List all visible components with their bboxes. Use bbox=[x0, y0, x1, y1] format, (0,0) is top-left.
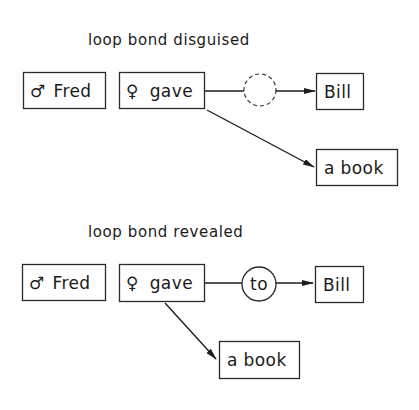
loop-bond-diagram: loop bond disguised ♂ Fred ♀ gave Bill bbox=[0, 0, 419, 410]
edge-gave-book bbox=[165, 303, 216, 359]
node-label: gave bbox=[150, 81, 193, 101]
node-label: Bill bbox=[323, 275, 350, 295]
node-book: a book bbox=[317, 150, 398, 186]
node-label: Fred bbox=[53, 81, 91, 101]
node-book: a book bbox=[220, 342, 300, 379]
diagram-title: loop bond disguised bbox=[88, 31, 250, 49]
node-label: a book bbox=[324, 158, 384, 178]
female-symbol-icon: ♀ bbox=[126, 273, 139, 293]
diagram-disguised: loop bond disguised ♂ Fred ♀ gave Bill bbox=[24, 31, 398, 186]
male-symbol-icon: ♂ bbox=[29, 273, 45, 293]
svg-text:♀ gave: ♀ gave bbox=[126, 81, 193, 101]
node-label: a book bbox=[227, 350, 287, 370]
female-symbol-icon: ♀ bbox=[126, 81, 139, 101]
node-gave: ♀ gave bbox=[120, 265, 205, 302]
diagram-title: loop bond revealed bbox=[88, 223, 243, 241]
loop-node-dashed bbox=[244, 74, 276, 106]
node-label: gave bbox=[150, 273, 193, 293]
node-label: Bill bbox=[324, 82, 351, 102]
node-label: to bbox=[250, 274, 268, 294]
node-bill: Bill bbox=[316, 267, 364, 303]
node-bill: Bill bbox=[317, 74, 364, 110]
svg-text:♂ Fred: ♂ Fred bbox=[30, 81, 91, 101]
diagram-revealed: loop bond revealed ♂ Fred ♀ gave to Bill bbox=[23, 223, 364, 379]
node-fred: ♂ Fred bbox=[23, 265, 106, 301]
male-symbol-icon: ♂ bbox=[30, 81, 46, 101]
svg-text:♀ gave: ♀ gave bbox=[126, 273, 193, 293]
node-label: Fred bbox=[52, 273, 90, 293]
node-fred: ♂ Fred bbox=[24, 73, 106, 109]
edge-gave-book bbox=[207, 110, 314, 167]
node-gave: ♀ gave bbox=[120, 73, 205, 109]
svg-text:♂ Fred: ♂ Fred bbox=[29, 273, 90, 293]
